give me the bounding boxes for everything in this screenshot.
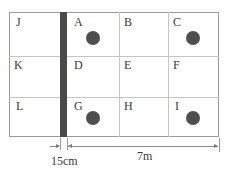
cell-label-k: K	[14, 59, 23, 71]
cell-label-h: H	[124, 100, 133, 112]
cell-label-j: J	[16, 16, 21, 28]
cell-label-e: E	[124, 59, 131, 71]
dot-marker-g	[86, 111, 100, 125]
grid-line-col-1	[119, 12, 120, 137]
cell-label-d: D	[74, 59, 83, 71]
extension-line-room-right	[219, 138, 220, 152]
dot-marker-a	[86, 31, 100, 45]
wall-thickness-label: 15cm	[51, 155, 78, 167]
room-width-label: 7m	[137, 150, 152, 162]
grid-line-row-2	[9, 97, 219, 98]
wall-bar	[60, 12, 67, 137]
cell-label-f: F	[173, 59, 180, 71]
cell-label-g: G	[74, 100, 83, 112]
cell-label-a: A	[74, 16, 83, 28]
cell-label-l: L	[16, 100, 23, 112]
cell-label-i: I	[175, 100, 179, 112]
cell-label-b: B	[124, 16, 132, 28]
dimension-line-room	[68, 146, 218, 147]
dot-marker-i	[186, 111, 200, 125]
dot-marker-c	[186, 31, 200, 45]
arrow-right-icon	[214, 144, 218, 148]
grid-line-col-2	[168, 12, 169, 137]
extension-line-wall-left	[60, 138, 61, 150]
cell-label-c: C	[173, 16, 181, 28]
grid-line-row-1	[9, 56, 219, 57]
arrow-right-icon	[56, 144, 60, 148]
